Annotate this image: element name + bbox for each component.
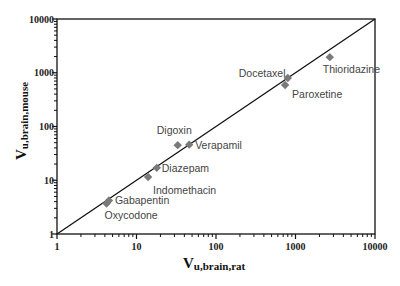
y-axis-title: Vu,brain,mouse (13, 82, 30, 160)
diamond-marker-digoxin (174, 141, 182, 149)
x-tick-label: 1 (55, 241, 60, 252)
label-paroxetine: Paroxetine (292, 88, 342, 100)
y-tick-label: 10 (44, 175, 54, 186)
x-axis-title: Vu,brain,rat (183, 255, 246, 272)
label-indomethacin: Indomethacin (153, 184, 216, 196)
y-tick-label: 100 (39, 121, 54, 132)
x-tick-label: 100 (209, 241, 224, 252)
label-thioridazine: Thioridazine (323, 63, 380, 75)
label-verapamil: Verapamil (195, 139, 242, 151)
data-point-labels: GabapentinOxycodoneIndomethacinDiazepamD… (105, 63, 381, 221)
y-tick-label: 1000 (34, 67, 54, 78)
x-tick-label: 1000 (286, 241, 306, 252)
scatter-chart: 110100100010000110100100010000 Gabapenti… (0, 0, 400, 286)
label-digoxin: Digoxin (157, 124, 192, 136)
label-oxycodone: Oxycodone (105, 209, 158, 221)
diamond-marker-verapamil (185, 140, 193, 148)
label-docetaxel: Docetaxel (239, 67, 286, 79)
y-tick-label: 10000 (29, 14, 54, 25)
y-tick-label: 1 (49, 229, 54, 240)
label-diazepam: Diazepam (162, 162, 210, 174)
diamond-marker-thioridazine (326, 53, 334, 61)
x-tick-label: 10000 (363, 241, 388, 252)
x-tick-label: 10 (132, 241, 142, 252)
data-points (102, 53, 334, 208)
